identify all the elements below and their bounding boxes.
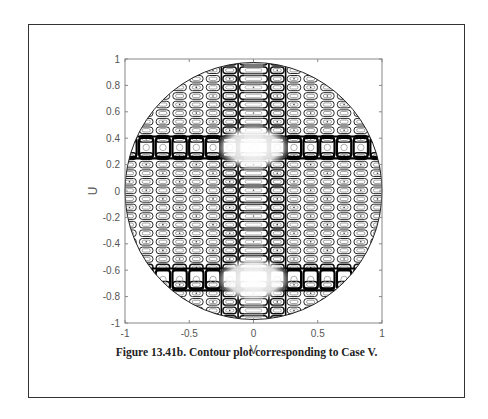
x-tick-label: 0 — [251, 328, 257, 339]
x-tick-label: -0.5 — [181, 328, 199, 339]
figure-caption: Figure 13.41b. Contour plot correspondin… — [28, 346, 465, 358]
y-tick-label: 0 — [114, 186, 120, 197]
y-tick-label: 0.4 — [106, 133, 120, 144]
x-tick-label: 1 — [379, 328, 385, 339]
y-tick-label: 0.2 — [106, 159, 120, 170]
y-axis-label: U — [86, 187, 100, 196]
y-tick-label: -1 — [111, 318, 120, 329]
plot-area — [106, 50, 402, 340]
y-tick-label: 0.8 — [106, 80, 120, 91]
y-tick-label: 0.6 — [106, 106, 120, 117]
contour-lines — [106, 50, 402, 340]
y-tick-label: -0.6 — [103, 265, 121, 276]
y-tick-label: -0.8 — [103, 291, 121, 302]
x-tick-label: 0.5 — [311, 328, 325, 339]
y-tick-label: -0.2 — [103, 212, 121, 223]
y-tick-label: -0.4 — [103, 238, 121, 249]
x-tick-label: -1 — [121, 328, 130, 339]
y-tick-label: 1 — [114, 54, 120, 65]
